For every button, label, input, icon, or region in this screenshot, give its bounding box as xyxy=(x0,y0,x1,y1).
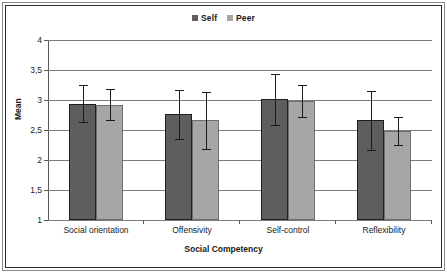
bar-group xyxy=(48,40,144,220)
x-axis-category-label: Social orientation xyxy=(48,225,144,235)
error-bar-cap-lower xyxy=(202,149,211,150)
error-bar-cap-lower xyxy=(271,125,280,126)
error-bar-line xyxy=(371,91,372,150)
error-bar-cap-upper xyxy=(202,92,211,93)
y-axis-tick-label: 1 xyxy=(37,215,42,225)
error-bar-cap-upper xyxy=(394,117,403,118)
legend-swatch-icon xyxy=(227,15,233,21)
legend-item-self[interactable]: Self xyxy=(192,13,217,23)
bar-group xyxy=(240,40,336,220)
bar-peer[interactable] xyxy=(288,101,315,220)
error-bar-cap-upper xyxy=(298,85,307,86)
x-axis-category-label: Offensivity xyxy=(144,225,240,235)
y-axis-tick-label: 4 xyxy=(37,35,42,45)
error-bar-cap-lower xyxy=(298,117,307,118)
legend-label: Self xyxy=(201,13,217,23)
error-bar-line xyxy=(398,117,399,145)
bar-peer[interactable] xyxy=(96,105,123,220)
error-bar-cap-upper xyxy=(175,90,184,91)
x-axis-tick xyxy=(431,220,432,224)
y-axis-tick-label: 2 xyxy=(37,155,42,165)
x-axis-category-label: Self-control xyxy=(240,225,336,235)
error-bar-cap-upper xyxy=(367,91,376,92)
y-axis-tick-label: 1,5 xyxy=(30,185,42,195)
y-axis-tick-label: 3 xyxy=(37,95,42,105)
error-bar-cap-lower xyxy=(367,150,376,151)
x-axis-tick xyxy=(239,220,240,224)
error-bar-cap-lower xyxy=(106,120,115,121)
y-axis-tick-label: 3,5 xyxy=(30,65,42,75)
error-bar-cap-upper xyxy=(271,74,280,75)
bar-group xyxy=(144,40,240,220)
bar-group xyxy=(336,40,432,220)
error-bar-cap-lower xyxy=(175,139,184,140)
chart-screenshot: SelfPeer Mean 43,532,521,51 Social Compe… xyxy=(0,0,447,273)
error-bar-cap-upper xyxy=(79,85,88,86)
error-bar-line xyxy=(206,92,207,150)
y-axis-tick xyxy=(44,220,48,221)
y-axis-title: Mean xyxy=(13,98,23,120)
error-bar-line xyxy=(302,85,303,117)
y-axis-tick-label: 2,5 xyxy=(30,125,42,135)
error-bar-line xyxy=(179,90,180,139)
error-bar-line xyxy=(275,74,276,124)
plot-area: 43,532,521,51 xyxy=(48,40,432,220)
x-axis-tick xyxy=(335,220,336,224)
x-axis-tick xyxy=(143,220,144,224)
x-axis-category-label: Reflexibility xyxy=(336,225,432,235)
legend-swatch-icon xyxy=(192,15,198,21)
chart-legend: SelfPeer xyxy=(0,13,447,23)
error-bar-line xyxy=(110,89,111,120)
gridline xyxy=(48,220,432,221)
error-bar-cap-upper xyxy=(106,89,115,90)
x-axis-title: Social Competency xyxy=(0,244,447,254)
error-bar-line xyxy=(83,85,84,122)
error-bar-cap-lower xyxy=(394,145,403,146)
legend-label: Peer xyxy=(236,13,255,23)
legend-item-peer[interactable]: Peer xyxy=(227,13,255,23)
error-bar-cap-lower xyxy=(79,122,88,123)
